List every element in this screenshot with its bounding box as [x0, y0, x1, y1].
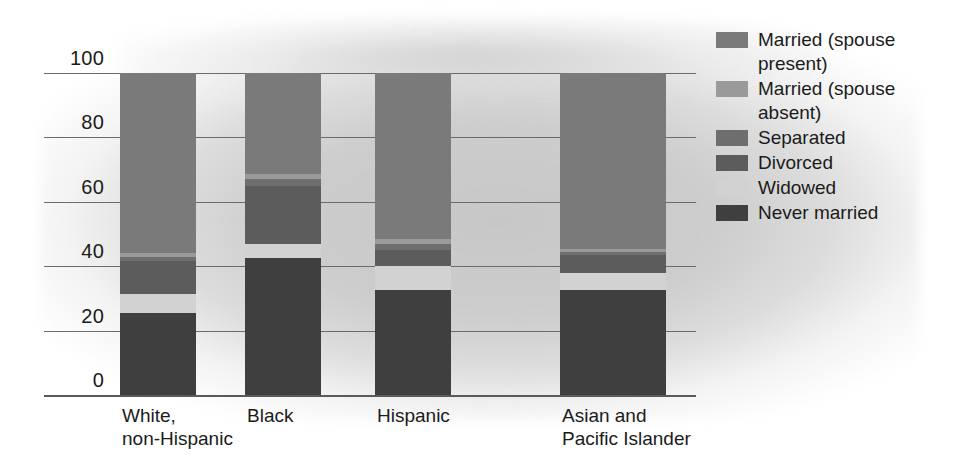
y-axis-labels: 020406080100	[40, 73, 104, 395]
y-tick-label-20: 20	[42, 305, 104, 328]
segment-separated	[560, 252, 666, 255]
segment-divorced	[120, 261, 196, 293]
segment-never-married	[120, 313, 196, 395]
segment-separated	[245, 179, 321, 185]
legend-item-separated[interactable]: Separated	[716, 126, 954, 150]
legend-label: Separated	[758, 126, 846, 150]
y-tick-label-100: 100	[42, 47, 104, 70]
segment-separated	[375, 244, 451, 250]
y-tick-label-80: 80	[42, 111, 104, 134]
legend-item-divorced[interactable]: Divorced	[716, 151, 954, 175]
segment-married-spouse-present	[560, 73, 666, 248]
segment-never-married	[560, 290, 666, 395]
bar-white-non-hispanic[interactable]	[120, 73, 196, 395]
legend-item-married-spouse[interactable]: Married (spouse absent)	[716, 77, 954, 125]
x-axis-baseline	[44, 395, 696, 397]
segment-separated	[120, 257, 196, 262]
segment-married-spouse-present	[120, 73, 196, 253]
legend-item-never-married[interactable]: Never married	[716, 201, 954, 225]
legend-swatch-icon	[716, 205, 748, 221]
legend-label: Married (spouse present)	[758, 28, 895, 76]
bar-asian-and-pacific-islander[interactable]	[560, 73, 666, 395]
segment-divorced	[245, 186, 321, 244]
segment-widowed	[120, 294, 196, 313]
x-axis-label-1: Black	[247, 404, 293, 427]
segment-never-married	[245, 258, 321, 395]
legend: Married (spouse present)Married (spouse …	[716, 28, 954, 226]
bar-black[interactable]	[245, 73, 321, 395]
segment-widowed	[560, 273, 666, 291]
legend-item-widowed[interactable]: Widowed	[716, 176, 954, 200]
segment-married-spouse-absent	[560, 249, 666, 252]
legend-swatch-icon	[716, 130, 748, 146]
legend-label: Divorced	[758, 151, 833, 175]
y-tick-label-60: 60	[42, 176, 104, 199]
segment-widowed	[375, 266, 451, 290]
segment-widowed	[245, 244, 321, 258]
segment-divorced	[375, 250, 451, 266]
x-axis-label-2: Hispanic	[377, 404, 450, 427]
segment-married-spouse-present	[245, 73, 321, 174]
legend-swatch-icon	[716, 155, 748, 171]
segment-never-married	[375, 290, 451, 395]
stacked-bar-chart-figure: 020406080100 Married (spouse present)Mar…	[0, 0, 954, 470]
legend-label: Never married	[758, 201, 878, 225]
y-tick-label-0: 0	[42, 369, 104, 392]
segment-married-spouse-absent	[375, 239, 451, 244]
legend-swatch-icon	[716, 81, 748, 97]
segment-married-spouse-absent	[245, 174, 321, 179]
legend-label: Married (spouse absent)	[758, 77, 895, 125]
x-axis-label-0: White, non-Hispanic	[122, 404, 233, 450]
legend-swatch-icon	[716, 180, 748, 196]
legend-label: Widowed	[758, 176, 836, 200]
legend-item-married-spouse[interactable]: Married (spouse present)	[716, 28, 954, 76]
segment-divorced	[560, 255, 666, 273]
bar-hispanic[interactable]	[375, 73, 451, 395]
y-tick-label-40: 40	[42, 240, 104, 263]
legend-swatch-icon	[716, 32, 748, 48]
plot-area	[120, 73, 696, 395]
x-axis-label-3: Asian and Pacific Islander	[562, 404, 691, 450]
segment-married-spouse-absent	[120, 253, 196, 256]
segment-married-spouse-present	[375, 73, 451, 239]
